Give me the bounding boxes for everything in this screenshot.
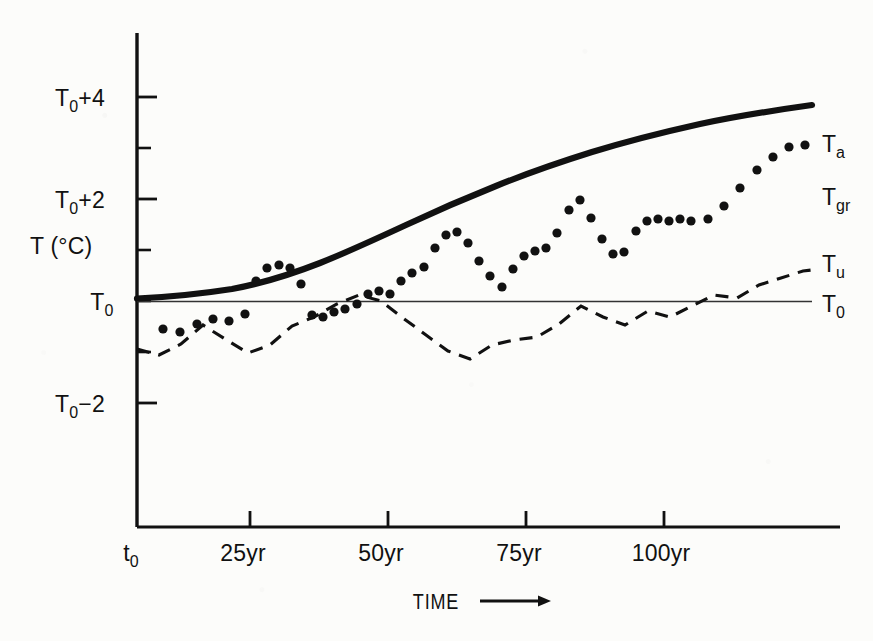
curve-Tu-dashed xyxy=(137,270,812,359)
time-arrow-icon xyxy=(480,596,551,607)
y-axis-title: T (°C) xyxy=(30,233,92,259)
curve-end-labels: Ta Tgr Tu T0 xyxy=(822,131,851,321)
x-tick-label-25yr: 25yr xyxy=(220,540,266,566)
curve-label-Tu: Tu xyxy=(822,251,845,281)
figure-canvas: T0+4 T0+2 T0 T0−2 T (°C) t0 25yr 50yr 75… xyxy=(0,0,873,641)
x-tick-label-t0: t0 xyxy=(123,540,139,570)
x-tick-label-100yr: 100yr xyxy=(632,540,691,566)
curve-label-Tgr: Tgr xyxy=(822,184,851,214)
x-tick-label-50yr: 50yr xyxy=(358,540,404,566)
y-tick-label-zero: T0 xyxy=(90,289,113,319)
chart-svg: T0+4 T0+2 T0 T0−2 T (°C) t0 25yr 50yr 75… xyxy=(0,0,873,641)
y-tick-label-plus4: T0+4 xyxy=(55,85,105,115)
x-axis-title: TIME xyxy=(413,589,459,613)
y-tick-label-minus2: T0−2 xyxy=(55,391,105,421)
y-axis-ticks xyxy=(137,97,157,403)
x-tick-labels: t0 25yr 50yr 75yr 100yr xyxy=(123,540,690,570)
curve-Ta-dotted xyxy=(158,140,809,336)
x-axis-ticks xyxy=(250,511,664,527)
x-tick-label-75yr: 75yr xyxy=(496,540,542,566)
x-axis-title-group: TIME xyxy=(413,589,551,613)
curve-Tgr-thick-solid xyxy=(137,105,812,299)
y-tick-label-plus2: T0+2 xyxy=(55,187,105,217)
curve-label-T0: T0 xyxy=(822,291,845,321)
curve-label-Ta: Ta xyxy=(822,131,845,161)
